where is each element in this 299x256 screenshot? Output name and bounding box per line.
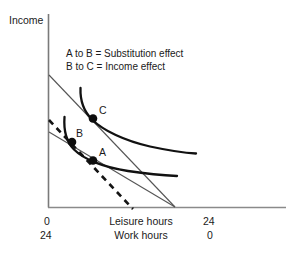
point-marker-c	[89, 114, 98, 123]
point-label-b: B	[76, 127, 83, 139]
x-tick-leisure-left: 0	[44, 215, 50, 227]
budget-line-compensated-dashed	[49, 120, 133, 209]
x-tick-work-left: 24	[40, 229, 52, 241]
x-axis-label-work-hours: Work hours	[86, 229, 196, 241]
indifference-curve-lower	[64, 117, 177, 176]
point-marker-a	[89, 156, 98, 165]
x-axis-label-leisure-hours: Leisure hours	[86, 215, 196, 227]
x-tick-work-right: 0	[207, 229, 213, 241]
point-marker-b	[68, 138, 77, 147]
y-axis-label: Income	[9, 14, 43, 26]
point-label-a: A	[99, 146, 106, 158]
income-leisure-substitution-income-effect-diagram: Income A to B = Substitution effect B to…	[0, 0, 299, 256]
x-tick-leisure-right: 24	[203, 215, 215, 227]
annotation-substitution-effect: A to B = Substitution effect	[66, 48, 183, 60]
indifference-curve-higher	[80, 88, 196, 154]
point-label-c: C	[99, 104, 107, 116]
annotation-income-effect: B to C = Income effect	[66, 61, 165, 73]
